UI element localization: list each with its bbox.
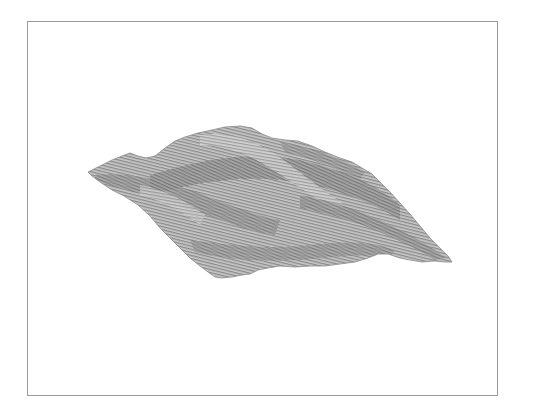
surface-plot [0, 0, 537, 416]
figure-canvas [0, 0, 537, 416]
